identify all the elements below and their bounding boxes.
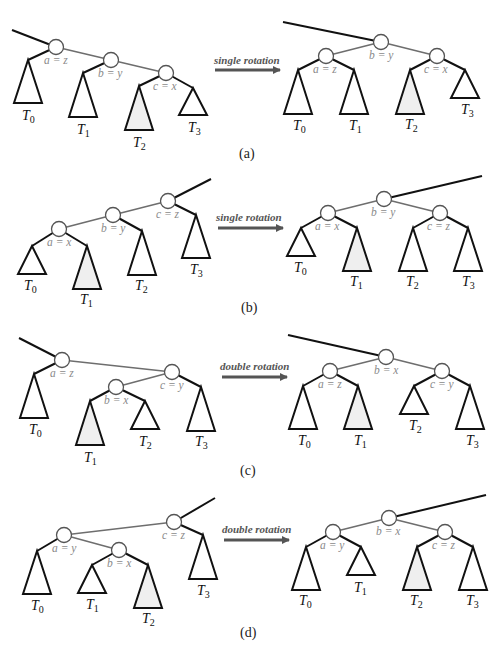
subtree-subscript: 2	[417, 424, 422, 435]
subtree-triangle-T0	[287, 228, 315, 256]
tree-edge	[62, 360, 172, 372]
subtree-subscript: 2	[147, 440, 152, 451]
subtree-triangle-T2	[134, 565, 162, 608]
node-b	[106, 208, 121, 223]
subtree-subscript: 0	[302, 266, 307, 277]
node-c	[435, 364, 450, 379]
subtree-label-T2: T2	[139, 434, 152, 451]
subtree-subscript: 3	[470, 280, 475, 291]
subtree-label-T3: T3	[195, 434, 208, 451]
node-b	[109, 380, 124, 395]
panels-group: T0T1T2T3a = zb = yc = xsingle rotationT0…	[12, 22, 487, 641]
subtree-subscript: 2	[418, 599, 423, 610]
subtree-subscript: 0	[32, 284, 37, 295]
tree-after: T0T1T2T3b = ya = zc = x	[283, 22, 479, 135]
subtree-triangle-T3	[456, 386, 484, 429]
subtree-triangle-T2	[131, 401, 159, 429]
panel-a: T0T1T2T3a = zb = yc = xsingle rotationT0…	[12, 22, 479, 162]
panel-b: T0T1T2T3c = zb = ya = xsingle rotationT0…	[18, 176, 482, 316]
node-label-a: a = y	[320, 539, 345, 552]
subtree-label-T1: T1	[349, 118, 362, 135]
subtree-label-T1: T1	[80, 292, 93, 309]
subtree-subscript: 0	[306, 439, 311, 450]
subtree-subscript: 2	[141, 141, 146, 152]
tree-before: T0T1T2T3a = zc = yb = x	[19, 338, 215, 467]
tree-after: T0T1T2T3b = xa = yc = z	[292, 495, 487, 610]
rotation-arrow: single rotation	[215, 211, 283, 228]
subtree-label-T3: T3	[190, 262, 203, 279]
node-label-a: a = z	[318, 378, 342, 390]
subtree-subscript: 1	[94, 603, 99, 614]
node-a	[57, 528, 72, 543]
subtree-label-T0: T0	[31, 598, 44, 615]
panel-caption: (a)	[239, 146, 255, 162]
node-label-b: b = x	[107, 557, 132, 569]
node-label-c: c = x	[153, 80, 178, 92]
subtree-subscript: 2	[414, 280, 419, 291]
node-label-b: b = x	[104, 394, 129, 406]
subtree-subscript: 2	[150, 617, 155, 628]
node-label-b: b = x	[376, 525, 401, 537]
node-b	[379, 350, 394, 365]
subtree-subscript: 0	[30, 114, 35, 125]
node-a	[52, 222, 67, 237]
subtree-label-T1: T1	[84, 450, 97, 467]
subtree-triangle-T0	[14, 60, 42, 103]
operation-label: single rotation	[213, 54, 280, 66]
node-label-b: b = x	[374, 364, 399, 376]
rotation-diagram: T0T1T2T3a = zb = yc = xsingle rotationT0…	[0, 0, 503, 659]
tree-before: T0T1T2T3c = za = yb = x	[23, 498, 217, 628]
subtree-label-T3: T3	[466, 433, 479, 450]
subtree-subscript: 3	[474, 439, 479, 450]
subtree-label-T1: T1	[350, 274, 363, 291]
subtree-label-T0: T0	[293, 118, 306, 135]
subtree-subscript: 3	[474, 599, 479, 610]
parent-edge	[384, 176, 482, 199]
subtree-subscript: 1	[88, 298, 93, 309]
subtree-subscript: 1	[92, 456, 97, 467]
node-label-c: c = z	[432, 539, 456, 551]
panel-d: T0T1T2T3c = za = yb = xdouble rotationT0…	[23, 495, 487, 641]
tree-before: T0T1T2T3a = zb = yc = x	[12, 30, 207, 152]
subtree-triangle-T0	[20, 374, 48, 418]
node-label-c: c = z	[156, 208, 180, 220]
node-label-b: b = y	[101, 222, 126, 235]
subtree-subscript: 0	[301, 124, 306, 135]
rotation-arrow: double rotation	[222, 523, 291, 540]
operation-label: double rotation	[222, 523, 291, 535]
node-c	[165, 365, 180, 380]
subtree-triangle-T2	[128, 231, 156, 275]
subtree-triangle-T1	[69, 73, 97, 117]
subtree-triangle-T2	[125, 86, 153, 130]
tree-before: T0T1T2T3c = zb = ya = x	[18, 179, 211, 309]
node-c	[161, 194, 176, 209]
subtree-label-T1: T1	[354, 433, 367, 450]
subtree-subscript: 1	[362, 439, 367, 450]
subtree-triangle-T0	[284, 70, 312, 114]
subtree-subscript: 1	[358, 280, 363, 291]
node-label-c: c = z	[162, 529, 186, 541]
node-a	[49, 40, 64, 55]
subtree-label-T3: T3	[466, 593, 479, 610]
node-b	[112, 543, 127, 558]
node-c	[167, 515, 182, 530]
node-label-c: c = y	[430, 378, 455, 391]
subtree-triangle-T3	[187, 387, 215, 431]
subtree-triangle-T3	[451, 70, 479, 98]
subtree-triangle-T0	[292, 547, 320, 590]
panel-c: T0T1T2T3a = zc = yb = xdouble rotationT0…	[19, 335, 484, 479]
parent-edge	[288, 335, 386, 357]
node-label-b: b = y	[369, 49, 394, 62]
subtree-label-T2: T2	[133, 135, 146, 152]
subtree-subscript: 2	[413, 123, 418, 134]
subtree-triangle-T2	[399, 228, 427, 271]
node-label-b: b = y	[371, 206, 396, 219]
subtree-label-T2: T2	[135, 278, 148, 295]
rotation-arrow: single rotation	[213, 54, 280, 70]
subtree-triangle-T1	[76, 401, 104, 445]
node-b	[104, 53, 119, 68]
subtree-triangle-T0	[18, 246, 46, 274]
subtree-triangle-T3	[454, 228, 482, 271]
subtree-triangle-T0	[289, 386, 317, 429]
subtree-triangle-T1	[347, 547, 375, 575]
